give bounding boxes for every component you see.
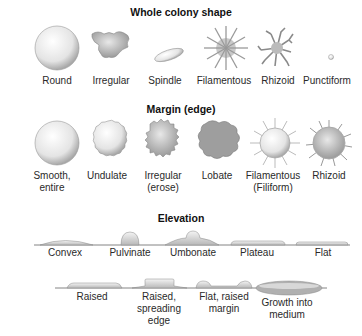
label-punctiform: Punctiform [303, 75, 351, 87]
section-title-whole-colony-shape: Whole colony shape [0, 6, 362, 18]
label-lobate: Lobate [202, 170, 233, 182]
label-filamentous-line2: (Filiform) [246, 182, 300, 194]
label-raised-spreading-edge: Raised, spreading edge [137, 291, 181, 327]
label-growth-line1: Growth into [261, 297, 312, 309]
label-flat-raised-line1: Flat, raised [199, 291, 248, 303]
shape-punctiform-icon [329, 55, 334, 60]
margin-rhizoid-icon [306, 120, 352, 166]
label-irregular-erose: Irregular (erose) [144, 170, 181, 194]
label-filamentous-filiform: Filamentous (Filiform) [246, 170, 300, 194]
label-umbonate: Umbonate [170, 247, 216, 259]
label-smooth-line2: entire [33, 182, 70, 194]
elev-umbonate-icon [165, 231, 219, 245]
label-spindle: Spindle [148, 75, 181, 87]
section-title-elevation: Elevation [0, 212, 362, 224]
elev-flat-icon [296, 242, 348, 245]
label-filamentous: Filamentous [197, 75, 251, 87]
label-irregular: Irregular [92, 75, 129, 87]
shape-filamentous-icon [204, 26, 248, 70]
shape-irregular-icon [92, 32, 129, 58]
label-raised-spreading-line3: edge [137, 315, 181, 327]
margin-irregular-icon [145, 119, 179, 157]
label-growth-into-medium: Growth into medium [261, 297, 312, 321]
shape-spindle-icon [153, 46, 185, 65]
shape-round-icon [35, 26, 79, 70]
label-growth-line2: medium [261, 309, 312, 321]
elev-flat-raised-margin-icon [196, 281, 252, 288]
label-raised-spreading-line2: spreading [137, 303, 181, 315]
label-raised: Raised [76, 291, 107, 303]
label-plateau: Plateau [240, 247, 274, 259]
margin-smooth-icon [35, 121, 79, 165]
label-margin-rhizoid: Rhizoid [312, 170, 345, 182]
label-convex: Convex [48, 247, 82, 259]
margin-undulate-icon [93, 120, 127, 156]
colony-morphology-figure [0, 0, 362, 336]
label-flat: Flat [315, 247, 332, 259]
elev-raised-icon [67, 283, 122, 288]
label-filamentous-line1: Filamentous [246, 170, 300, 182]
label-raised-spreading-line1: Raised, [137, 291, 181, 303]
label-round: Round [42, 75, 71, 87]
elev-pulvinate-icon [121, 232, 139, 245]
elev-convex-icon [40, 241, 93, 246]
label-undulate: Undulate [87, 170, 127, 182]
label-pulvinate: Pulvinate [109, 247, 150, 259]
elev-raised-spreading-icon [132, 279, 187, 288]
shape-rhizoid-icon [258, 28, 293, 66]
elev-plateau-icon [231, 241, 285, 245]
margin-filamentous-icon [250, 118, 300, 168]
label-smooth-line1: Smooth, [33, 170, 70, 182]
label-smooth-entire: Smooth, entire [33, 170, 70, 194]
label-flat-raised-line2: margin [199, 303, 248, 315]
label-irregular-line2: (erose) [144, 182, 181, 194]
elev-growth-into-medium-icon [256, 281, 322, 295]
label-rhizoid: Rhizoid [261, 75, 294, 87]
margin-lobate-icon [198, 121, 239, 159]
section-title-margin: Margin (edge) [0, 103, 362, 115]
label-irregular-line1: Irregular [144, 170, 181, 182]
label-flat-raised-margin: Flat, raised margin [199, 291, 248, 315]
